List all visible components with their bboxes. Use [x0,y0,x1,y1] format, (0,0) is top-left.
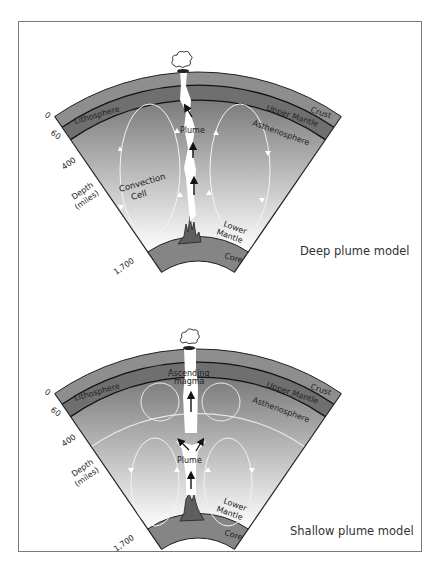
ascending-magma-column [183,349,198,433]
depth-tick-1700: 1,700 [112,256,136,277]
depth-tick-0: 0 [43,387,52,397]
shallow-plume-diagram: Lithosphere Crust Upper Mantle Asthenosp… [43,329,414,554]
depth-tick-400: 400 [60,156,78,172]
label-plume: Plume [177,456,202,465]
mantle-region [71,377,326,529]
mantle-region [71,100,326,252]
eruption-cloud-icon [180,329,199,350]
label-magma: magma [174,377,205,386]
eruption-cloud-icon [172,51,192,73]
depth-tick-400: 400 [60,433,78,449]
depth-tick-60: 60 [49,405,63,418]
caption-shallow-plume: Shallow plume model [290,524,414,538]
depth-tick-60: 60 [49,128,63,141]
deep-plume-diagram: Lithosphere Crust Upper Mantle Asthenosp… [43,51,410,276]
caption-deep-plume: Deep plume model [300,244,410,258]
plume-models-figure: Lithosphere Crust Upper Mantle Asthenosp… [0,0,440,573]
label-plume: Plume [180,126,205,135]
depth-tick-1700: 1,700 [112,533,136,554]
depth-tick-0: 0 [43,110,52,120]
